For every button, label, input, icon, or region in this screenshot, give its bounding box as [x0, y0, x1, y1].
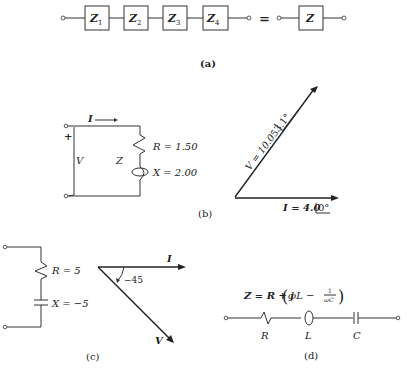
frac-numerator: 1 [328, 287, 332, 294]
panel-c-phasor: I −45 V (c) [86, 253, 186, 362]
resistor-symbol [261, 312, 301, 324]
z2-label: Z2 [128, 12, 142, 27]
z1-label: Z1 [89, 12, 103, 27]
panel-d-series-rlc: Z = R + j ( ωL − 1 ωC ) R L C (d) [224, 287, 400, 361]
capacitor-label: C [353, 330, 361, 341]
reactance-value: X = −5 [51, 298, 89, 309]
resistor-symbol [133, 135, 145, 167]
svg-text:V = 10.053.1°: V = 10.053.1° [243, 111, 293, 172]
impedance-label: Z [115, 155, 124, 166]
resistor-label: R [260, 330, 269, 341]
voltage-label: V [155, 335, 164, 346]
terminal-left-equiv [277, 16, 281, 20]
caption-b: (b) [198, 208, 212, 219]
voltage-label: V [76, 155, 85, 166]
resistor-symbol [35, 262, 47, 300]
wire-top [68, 126, 140, 135]
caption-a: (a) [200, 58, 216, 69]
current-arrow-icon [331, 195, 339, 201]
current-phasor-label: I = 4.0 [282, 202, 320, 213]
frac-denominator: ωC [324, 296, 334, 303]
current-label: I [166, 253, 172, 264]
terminal-bottom [3, 325, 7, 329]
plus-sign: + [64, 131, 72, 142]
voltage-phasor [235, 89, 314, 197]
angle-label: −45 [124, 275, 143, 285]
equation-inner: ωL − [288, 290, 314, 301]
inductor-symbol [305, 311, 313, 325]
caption-d: (d) [304, 350, 318, 361]
terminal-right-equiv [342, 16, 346, 20]
wire-top [7, 247, 41, 262]
terminal-top [64, 124, 68, 128]
voltage-phasor-label: V = 10.053.1° [243, 103, 299, 172]
terminal-top [3, 245, 7, 249]
current-arrow-icon [114, 118, 118, 122]
terminal-left [61, 16, 65, 20]
resistor-value: R = 5 [51, 265, 81, 276]
panel-b-phasor: V = 10.053.1° I = 4.0 0° (b) [198, 86, 339, 219]
terminal-right [396, 316, 400, 320]
z4-label: Z4 [206, 12, 220, 27]
caption-c: (c) [86, 351, 100, 362]
panel-b-circuit: I + V Z R = 1.50 X = 2.00 [64, 113, 198, 198]
inductor-label: L [304, 330, 312, 341]
current-arrow-icon [178, 264, 186, 270]
panel-a-series-impedances: Z1 Z2 Z3 Z4 = Z (a) [61, 6, 346, 69]
terminal-right [247, 16, 251, 20]
current-label: I [87, 113, 93, 124]
equals-sign: = [259, 11, 270, 26]
inductor-symbol [132, 168, 148, 176]
terminal-left [224, 316, 228, 320]
wire-bottom [7, 305, 41, 327]
reactance-value: X = 2.00 [152, 167, 198, 178]
resistor-value: R = 1.50 [152, 141, 198, 152]
paren-close: ) [338, 287, 344, 306]
z3-label: Z3 [167, 12, 181, 27]
current-angle: 0° [318, 202, 329, 213]
panel-c-circuit: R = 5 X = −5 [3, 245, 88, 329]
z-label: Z [305, 12, 315, 25]
terminal-bottom [64, 194, 68, 198]
diagram-canvas: Z1 Z2 Z3 Z4 = Z (a) I [0, 0, 407, 369]
